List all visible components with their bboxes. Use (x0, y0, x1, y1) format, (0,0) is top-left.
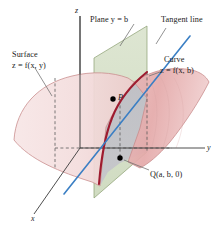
tangent-line-label: Tangent line (161, 15, 203, 25)
axis-label-x: x (31, 214, 35, 223)
axis-label-y: y (207, 143, 211, 152)
leader-tangent (156, 28, 166, 44)
point-Q-marker (117, 155, 122, 160)
plane-label: Plane y = b (90, 15, 128, 25)
point-p-label: P (118, 93, 123, 103)
axis-label-z: z (75, 6, 78, 15)
point-q-label: Q(a, b, 0) (150, 170, 182, 180)
diagram-canvas (0, 0, 223, 232)
tangent-line-diagram: z y x Surface z = f(x, y) Plane y = b Ta… (0, 0, 223, 232)
curve-label-line1: Curve (164, 55, 185, 65)
surface-label-line2: z = f(x, y) (12, 61, 46, 71)
surface-label-line1: Surface (12, 50, 38, 60)
curve-label-line2: z = f(x, b) (160, 66, 194, 76)
point-P-marker (110, 96, 115, 101)
